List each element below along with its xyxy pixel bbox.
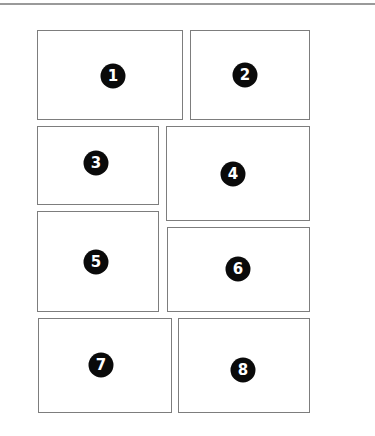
number-badge-2: 2 — [233, 63, 258, 88]
number-badge-7: 7 — [89, 353, 114, 378]
number-badge-6: 6 — [226, 257, 251, 282]
number-badge-1: 1 — [101, 64, 126, 89]
number-badge-5: 5 — [84, 250, 109, 275]
number-badge-4: 4 — [221, 162, 246, 187]
number-badge-8: 8 — [231, 358, 256, 383]
top-divider — [0, 3, 375, 5]
number-badge-3: 3 — [84, 151, 109, 176]
